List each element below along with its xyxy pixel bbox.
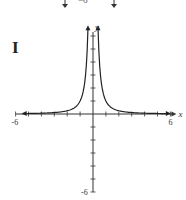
graph-plot: -66-6xy xyxy=(0,0,186,200)
x-axis-arrow-icon xyxy=(171,112,176,117)
y-tick-label: -6 xyxy=(81,188,88,197)
arrow-down-icon xyxy=(62,4,68,8)
x-tick-label: 6 xyxy=(168,118,172,127)
axes: -66-6xy xyxy=(12,22,183,197)
curve-arrow-left-icon xyxy=(22,111,27,116)
x-tick-label: -6 xyxy=(12,118,19,127)
curve-arrow-up-icon xyxy=(85,25,90,30)
curve-left-branch xyxy=(25,29,88,114)
curve-right-branch xyxy=(98,29,168,114)
curves xyxy=(22,25,171,116)
arrow-down-icon xyxy=(111,4,117,8)
x-axis-label: x xyxy=(177,109,182,119)
